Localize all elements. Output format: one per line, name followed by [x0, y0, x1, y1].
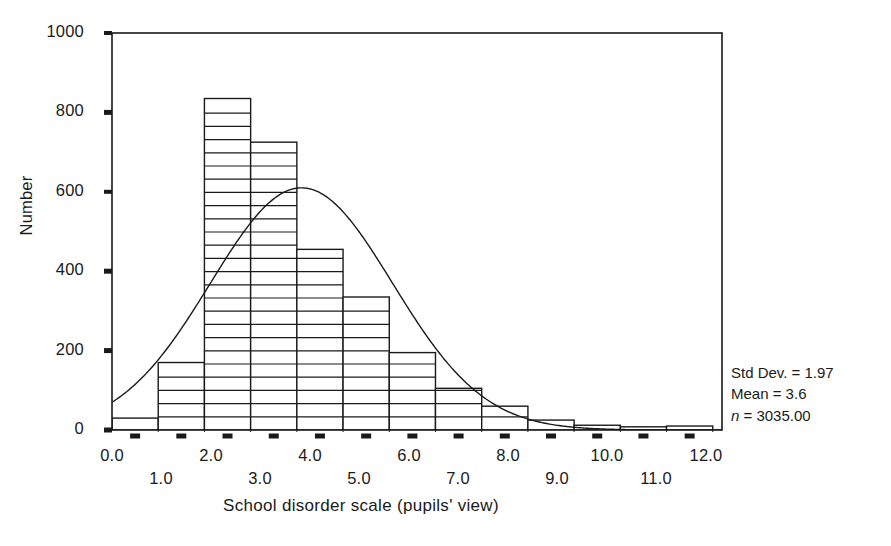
- histogram-bar: [389, 353, 435, 430]
- histogram-bar: [158, 363, 204, 430]
- histogram-bar: [435, 388, 481, 430]
- histogram-bar: [204, 99, 250, 430]
- x-tick-marks: [130, 430, 713, 436]
- histogram-chart: Number School disorder scale (pupils' vi…: [0, 0, 891, 546]
- histogram-bar: [343, 297, 389, 430]
- plot-area: [0, 0, 891, 546]
- histogram-bar: [297, 249, 343, 430]
- histogram-bar: [112, 418, 158, 430]
- bars-layer: [112, 99, 713, 430]
- histogram-bar: [251, 142, 297, 430]
- y-tick-marks: [104, 33, 112, 430]
